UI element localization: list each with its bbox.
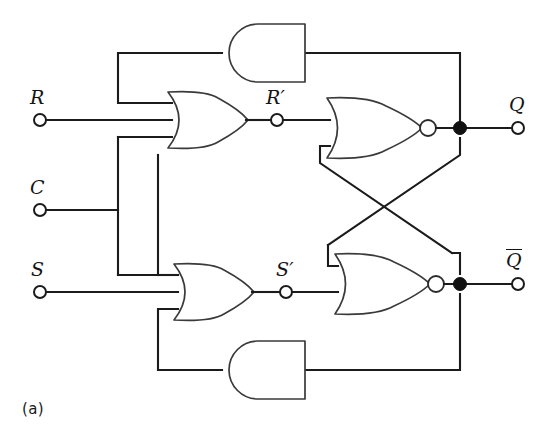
circuit-schematic-canvas [0, 0, 558, 436]
or-gate-bottom-body [174, 264, 254, 321]
output-q-bar-label: Q [506, 249, 522, 270]
and-gate-top [229, 24, 305, 82]
nor-gate-top-body [327, 98, 422, 159]
output-q-bar-terminal [512, 278, 524, 290]
nor-gate-bottom [335, 254, 444, 315]
nor-gate-bottom-bubble [428, 276, 444, 292]
and-gate-top-body [229, 24, 305, 82]
input-r-terminal[interactable] [34, 114, 46, 126]
input-s-terminal[interactable] [34, 286, 46, 298]
output-q-bar-label-text: Q [506, 249, 522, 270]
and-gate-bottom [229, 341, 305, 399]
or-gate-bottom [174, 264, 254, 321]
wire-qbar-riser-up [452, 253, 460, 274]
nor-gate-top-bubble [420, 120, 436, 136]
nor-gate-bottom-body [335, 254, 430, 315]
or-gate-top [168, 92, 248, 149]
input-s-label: S [31, 260, 44, 279]
or-gate-top-body [168, 92, 248, 149]
junction-q-bar [454, 278, 467, 291]
nor-gate-top [327, 98, 436, 159]
node-r-prime-label: R′ [266, 88, 285, 107]
input-c-label: C [30, 178, 45, 197]
output-q-label: Q [509, 95, 525, 114]
node-r-prime-terminal [271, 114, 283, 126]
node-s-prime-label: S′ [276, 260, 294, 279]
input-c-terminal[interactable] [34, 204, 46, 216]
output-q-terminal [512, 122, 524, 134]
input-r-label: R [30, 88, 45, 107]
circuit-diagram: R C S R′ S′ Q Q (a) [0, 0, 558, 436]
junction-q [454, 122, 467, 135]
node-s-prime-terminal [280, 286, 292, 298]
figure-caption: (a) [22, 400, 44, 418]
and-gate-bottom-body [229, 341, 305, 399]
